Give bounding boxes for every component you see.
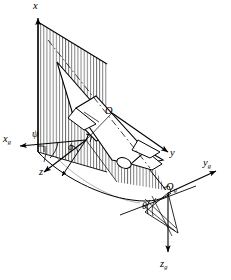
axis-label-y: y xyxy=(170,148,175,159)
origin-label-Og-sub: g xyxy=(174,186,177,193)
angle-label-phi: ϕ xyxy=(68,142,73,152)
diagram-canvas xyxy=(0,0,231,280)
angle-label-psi: ψ xyxy=(32,129,38,139)
axis-label-zg: zg xyxy=(160,259,167,270)
axis-label-yg: yg xyxy=(203,158,211,169)
origin-label-O: O xyxy=(105,106,113,117)
angle-label-theta: θ xyxy=(142,201,147,211)
attitude-angle-figure: x y z xg yg zg O Og ψ ϕ θ xyxy=(0,0,231,280)
axis-label-x: x xyxy=(33,1,38,12)
arc-theta xyxy=(147,200,150,214)
origin-label-Og-base: O xyxy=(166,181,174,192)
axis-label-xg-base: x xyxy=(3,133,8,144)
axis-label-z: z xyxy=(39,167,43,178)
origin-label-Og: Og xyxy=(166,182,177,193)
axis-yg-back xyxy=(120,186,196,215)
axis-label-yg-sub: g xyxy=(208,162,211,169)
axis-label-zg-sub: g xyxy=(164,263,167,270)
axis-label-xg: xg xyxy=(3,134,11,145)
axis-label-xg-sub: g xyxy=(8,138,11,145)
axis-label-yg-base: y xyxy=(203,157,208,168)
